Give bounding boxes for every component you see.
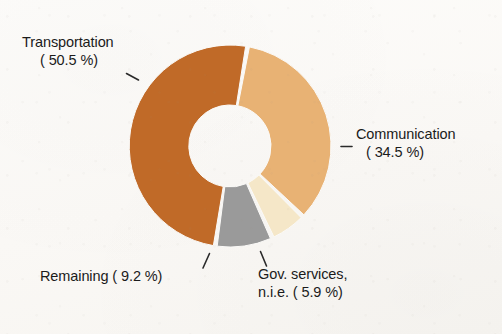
slice-label-transportation-value: ( 50.5 %)	[22, 52, 114, 70]
slice-label-transportation: Transportation ( 50.5 %)	[22, 34, 114, 69]
slice-label-gov-services-name: Gov. services,	[258, 266, 347, 282]
slice-label-gov-services-value: n.i.e. ( 5.9 %)	[258, 284, 347, 302]
donut-slices	[129, 45, 331, 247]
leader-line-remaining	[203, 254, 210, 269]
slice-label-communication-name: Communication	[356, 126, 455, 142]
slice-label-transportation-name: Transportation	[22, 34, 114, 50]
slice-label-communication: Communication ( 34.5 %)	[356, 126, 455, 161]
leader-line-gov	[261, 252, 267, 267]
slice-label-gov-services: Gov. services, n.i.e. ( 5.9 %)	[258, 266, 347, 301]
slice-label-remaining: Remaining ( 9.2 %)	[40, 268, 162, 286]
leader-line-transportation	[127, 74, 139, 81]
chart-canvas: Transportation ( 50.5 %) Communication (…	[0, 0, 502, 334]
slice-label-communication-value: ( 34.5 %)	[356, 144, 455, 162]
slice-label-remaining-text: Remaining ( 9.2 %)	[40, 268, 162, 284]
